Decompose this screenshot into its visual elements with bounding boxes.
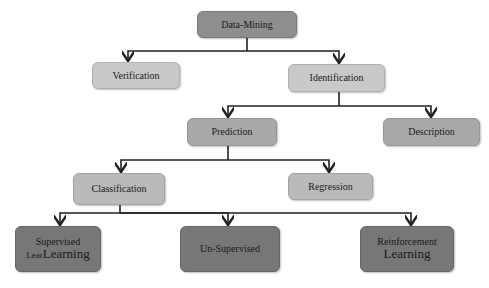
node-data-mining: Data-Mining — [197, 11, 297, 38]
edge-datamining-verification — [128, 51, 247, 61]
edge-classification-supervised — [60, 213, 120, 225]
node-supervised-line2-main: Learning — [43, 246, 90, 261]
node-description-label: Description — [408, 126, 455, 138]
node-reinforcement-learning: Reinforcement Learning — [360, 226, 454, 272]
node-reinforcement-line2: Learning — [384, 247, 431, 262]
node-verification-label: Verification — [112, 70, 159, 82]
node-description: Description — [383, 118, 480, 146]
node-classification: Classification — [73, 173, 165, 205]
node-regression-label: Regression — [308, 181, 352, 193]
node-data-mining-label: Data-Mining — [221, 19, 273, 31]
node-verification: Verification — [92, 62, 180, 89]
node-identification-label: Identification — [310, 72, 364, 84]
edge-datamining-identification — [247, 51, 339, 63]
node-classification-label: Classification — [92, 183, 147, 195]
node-regression: Regression — [288, 173, 373, 200]
node-supervised-line2: LearLearning — [26, 247, 89, 262]
edge-identification-description — [339, 106, 431, 117]
node-prediction-label: Prediction — [211, 126, 252, 138]
edge-classification-reinforcement — [120, 213, 411, 225]
edge-identification-prediction — [228, 106, 339, 117]
edge-classification-unsupervised — [120, 213, 228, 225]
node-un-supervised: Un-Supervised — [180, 226, 280, 272]
node-prediction: Prediction — [187, 118, 277, 146]
node-identification: Identification — [288, 64, 385, 92]
node-supervised-learning: Supervised LearLearning — [15, 226, 101, 272]
node-supervised-line2-prefix: Lear — [26, 250, 42, 260]
edge-prediction-classification — [121, 160, 228, 172]
node-unsupervised-label: Un-Supervised — [200, 243, 260, 255]
edge-prediction-regression — [228, 160, 329, 172]
